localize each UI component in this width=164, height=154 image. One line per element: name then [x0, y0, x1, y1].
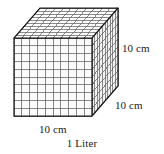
dimension-label-height: 10 cm — [122, 42, 150, 54]
dimension-label-width: 10 cm — [39, 123, 67, 135]
liter-cube-figure: 10 cm 10 cm 10 cm 1 Liter — [0, 0, 164, 154]
dimension-label-depth: 10 cm — [115, 99, 143, 111]
cube-diagram — [0, 0, 164, 154]
figure-caption: 1 Liter — [0, 137, 164, 149]
